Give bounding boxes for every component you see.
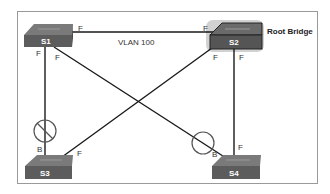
port-s3-s1: B	[37, 145, 42, 154]
vlan-label: VLAN 100	[118, 38, 155, 47]
port-s2-s1: F	[203, 24, 208, 33]
port-s1-s4: F	[55, 53, 60, 62]
port-s2-s3: F	[213, 53, 218, 62]
switch-s2[interactable]: S2	[206, 20, 264, 52]
switch-s1[interactable]: S1	[24, 24, 73, 47]
port-s1-s2: F	[78, 24, 83, 33]
switch-s1-label: S1	[41, 37, 51, 46]
port-s2-s4: F	[239, 53, 244, 62]
port-s1-s3: F	[36, 49, 41, 58]
switch-s4-label: S4	[229, 169, 239, 178]
root-bridge-label: Root Bridge	[267, 27, 313, 36]
port-s4-s2: F	[238, 143, 243, 152]
switch-s3-label: S3	[40, 169, 50, 178]
stp-diagram: S1 S2 Root Bridge S3 S4 VLAN 100 F F F F…	[0, 0, 330, 194]
switch-s2-label: S2	[229, 38, 239, 47]
port-s3-s2: F	[77, 149, 82, 158]
port-s4-s1: B	[212, 150, 217, 159]
